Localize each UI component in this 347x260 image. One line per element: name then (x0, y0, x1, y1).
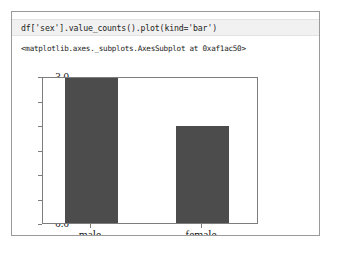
xtick-label-female: female (171, 229, 231, 236)
xtick-label-male: male (60, 229, 120, 236)
plot-axes-frame (42, 77, 258, 224)
figure-output: 0.0 0.5 1.0 1.5 2.0 2.5 3.0 male female (12, 58, 320, 236)
text-output-line: <matplotlib.axes._subplots.AxesSubplot a… (21, 43, 246, 54)
xtick-mark-male (90, 224, 91, 228)
notebook-cell-container: df['sex'].value_counts().plot(kind='bar'… (11, 11, 320, 236)
code-input-cell[interactable]: df['sex'].value_counts().plot(kind='bar'… (12, 19, 320, 36)
ytick-mark-0 (38, 224, 42, 225)
bar-male (65, 78, 118, 223)
code-input-text[interactable]: df['sex'].value_counts().plot(kind='bar'… (21, 22, 217, 34)
bar-female (176, 126, 229, 223)
xtick-mark-female (201, 224, 202, 228)
